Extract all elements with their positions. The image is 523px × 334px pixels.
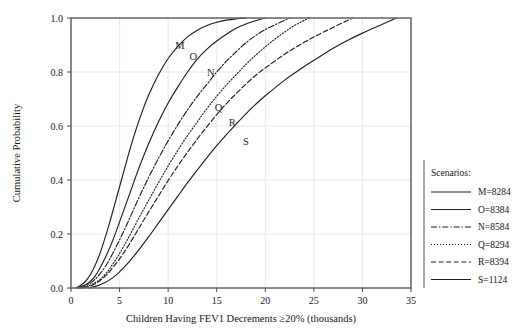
y-axis-ticks: 0.00.20.40.60.81.0 (51, 13, 72, 294)
legend-label-m: M=8284 (478, 187, 511, 197)
plot-frame (71, 18, 411, 288)
series-line-s (88, 18, 396, 288)
y-tick-label: 1.0 (51, 13, 64, 24)
series-line-n (80, 18, 290, 288)
legend-title: Scenarios: (431, 168, 471, 178)
legend-label-q: Q=8294 (478, 240, 509, 250)
figure-container: 05101520253035 0.00.20.40.60.81.0 Childr… (0, 0, 523, 334)
legend-label-o: O=8384 (478, 205, 509, 215)
curve-inline-labels: MONQRS (175, 40, 249, 147)
gridlines (71, 18, 411, 288)
series-line-r (84, 18, 353, 288)
cumulative-probability-chart: 05101520253035 0.00.20.40.60.81.0 Childr… (0, 0, 523, 334)
x-tick-label: 35 (406, 295, 416, 306)
x-tick-label: 0 (69, 295, 74, 306)
x-tick-label: 20 (260, 295, 270, 306)
y-tick-label: 0.2 (51, 229, 64, 240)
legend-items: M=8284O=8384N=8584Q=8294R=8394S=1124 (431, 187, 511, 285)
x-axis-ticks: 05101520253035 (69, 288, 417, 306)
curve-label-s: S (243, 136, 249, 147)
legend-label-s: S=1124 (478, 275, 508, 285)
data-curves (76, 18, 397, 288)
y-axis-label: Cumulative Probability (11, 103, 22, 202)
series-line-o (78, 18, 265, 288)
x-tick-label: 30 (357, 295, 367, 306)
y-tick-label: 0.6 (51, 121, 64, 132)
y-tick-label: 0.8 (51, 67, 64, 78)
curve-label-n: N (207, 67, 215, 78)
curve-label-r: R (229, 117, 236, 128)
y-tick-label: 0.0 (51, 283, 64, 294)
curve-label-m: M (175, 40, 185, 51)
x-tick-label: 25 (309, 295, 319, 306)
legend-label-r: R=8394 (478, 257, 509, 267)
x-axis-label: Children Having FEV1 Decrements ≥20% (th… (126, 313, 357, 325)
legend-label-n: N=8584 (478, 222, 509, 232)
y-tick-label: 0.4 (51, 175, 64, 186)
curve-label-q: Q (215, 102, 223, 113)
x-tick-label: 15 (212, 295, 222, 306)
curve-label-o: O (190, 51, 198, 62)
x-tick-label: 5 (117, 295, 122, 306)
x-tick-label: 10 (163, 295, 173, 306)
